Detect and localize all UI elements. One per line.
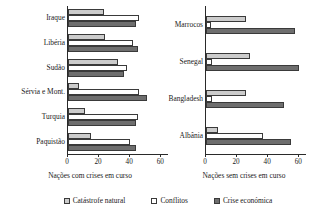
bar bbox=[206, 59, 212, 65]
legend-item: Conflitos bbox=[151, 197, 188, 205]
bar bbox=[68, 21, 136, 27]
bar bbox=[206, 127, 218, 133]
legend-item: Crise económica bbox=[214, 197, 272, 205]
bar bbox=[68, 83, 79, 89]
category-label: Albânia bbox=[180, 132, 203, 140]
bar bbox=[68, 139, 130, 145]
chart-panels: IraqueLibériaSudãoSérvia e Mont.TurquiaP… bbox=[0, 0, 336, 190]
bar bbox=[206, 22, 211, 28]
bar bbox=[68, 34, 105, 40]
bar bbox=[68, 133, 91, 139]
category-label: Marrocos bbox=[175, 21, 203, 29]
category-label: Bangladesh bbox=[169, 95, 203, 103]
category-axis-right: MarrocosSenegalBangladeshAlbânia bbox=[168, 6, 205, 154]
axis-tick bbox=[298, 154, 299, 157]
category-label: Turquia bbox=[42, 113, 65, 121]
legend-swatch bbox=[214, 198, 220, 204]
axis-tick bbox=[98, 154, 99, 157]
axis-tick bbox=[67, 154, 68, 157]
axis-tick-label: 40 bbox=[126, 158, 133, 166]
bar bbox=[68, 108, 85, 114]
bar bbox=[68, 9, 104, 15]
bar bbox=[206, 133, 263, 139]
bar bbox=[68, 71, 124, 77]
axis-tick-label: 40 bbox=[264, 158, 271, 166]
axis-tick bbox=[267, 154, 268, 157]
legend-label: Crise económica bbox=[223, 197, 272, 205]
category-label: Paquistão bbox=[36, 138, 65, 146]
bar bbox=[68, 95, 147, 101]
legend-label: Catástrofe natural bbox=[73, 197, 126, 205]
bar bbox=[68, 89, 139, 95]
legend-item: Catástrofe natural bbox=[64, 197, 126, 205]
bar bbox=[68, 46, 138, 52]
bar-group bbox=[206, 90, 307, 108]
legend-swatch bbox=[151, 198, 157, 204]
axis-tick-label: 0 bbox=[65, 158, 69, 166]
bar bbox=[206, 53, 250, 59]
bar bbox=[68, 59, 118, 65]
bar bbox=[206, 28, 295, 34]
axis-tick bbox=[129, 154, 130, 157]
bar bbox=[206, 90, 246, 96]
bar-group bbox=[68, 108, 169, 126]
axis-tick bbox=[236, 154, 237, 157]
bar-group bbox=[68, 59, 169, 77]
bar bbox=[206, 96, 212, 102]
legend-label: Conflitos bbox=[160, 197, 188, 205]
plot-area-right bbox=[205, 6, 307, 154]
axis-tick-label: 60 bbox=[295, 158, 302, 166]
legend-swatch bbox=[64, 198, 70, 204]
axis-tick-label: 0 bbox=[203, 158, 207, 166]
x-axis-title-right: Nações sem crises em curso bbox=[160, 171, 328, 180]
category-label: Sudão bbox=[47, 64, 65, 72]
category-axis-left: IraqueLibériaSudãoSérvia e Mont.TurquiaP… bbox=[0, 6, 67, 154]
value-axis-line-right bbox=[205, 154, 306, 155]
x-axis-title-left: Nações com crises em curso bbox=[6, 171, 174, 180]
chart-legend: Catástrofe naturalConflitosCrise económi… bbox=[0, 190, 336, 212]
axis-tick bbox=[160, 154, 161, 157]
bar bbox=[68, 65, 127, 71]
bar bbox=[206, 139, 291, 145]
bar bbox=[206, 102, 284, 108]
bar bbox=[206, 65, 299, 71]
bar-group bbox=[206, 53, 307, 71]
bar-group bbox=[68, 83, 169, 101]
bar bbox=[68, 120, 136, 126]
bar-group bbox=[68, 133, 169, 151]
axis-tick-label: 20 bbox=[232, 158, 239, 166]
chart-panel-right: MarrocosSenegalBangladeshAlbânia Nações … bbox=[168, 0, 336, 190]
category-label: Sérvia e Mont. bbox=[21, 88, 65, 96]
bar bbox=[68, 114, 138, 120]
bar bbox=[68, 15, 139, 21]
bar-group bbox=[68, 9, 169, 27]
bar-group bbox=[68, 34, 169, 52]
axis-tick-label: 20 bbox=[94, 158, 101, 166]
bar bbox=[68, 145, 136, 151]
category-label: Senegal bbox=[180, 58, 203, 66]
bar bbox=[206, 16, 246, 22]
bar-group bbox=[206, 127, 307, 145]
value-axis-line-left bbox=[67, 154, 168, 155]
plot-area-left bbox=[67, 6, 169, 154]
chart-panel-left: IraqueLibériaSudãoSérvia e Mont.TurquiaP… bbox=[0, 0, 168, 190]
bar-group bbox=[206, 16, 307, 34]
axis-tick bbox=[205, 154, 206, 157]
axis-tick-label: 60 bbox=[157, 158, 164, 166]
grouped-bar-chart-figure: IraqueLibériaSudãoSérvia e Mont.TurquiaP… bbox=[0, 0, 336, 212]
bar bbox=[68, 40, 133, 46]
category-label: Iraque bbox=[46, 14, 65, 22]
category-label: Libéria bbox=[44, 39, 65, 47]
